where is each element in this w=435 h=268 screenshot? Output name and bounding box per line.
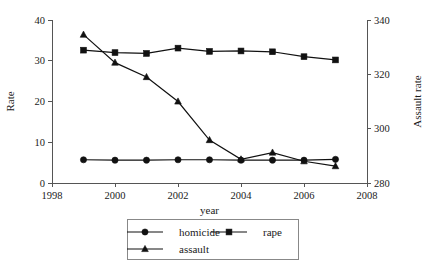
x-tick-label: 2006 (294, 190, 315, 201)
data-point-assault (80, 31, 87, 37)
right-tick-label: 280 (374, 178, 390, 189)
data-point-rape (238, 48, 244, 54)
x-tick-label: 2000 (105, 190, 126, 201)
legend-item-assault[interactable]: assault (127, 243, 209, 255)
x-tick-label: 2004 (231, 190, 253, 201)
legend-marker-rape (226, 229, 232, 235)
data-point-assault (175, 98, 182, 104)
data-point-homicide (175, 157, 181, 163)
series-rape (81, 45, 339, 63)
data-point-homicide (269, 157, 275, 163)
x-tick-label: 2002 (168, 190, 189, 201)
x-axis-title: year (200, 204, 219, 216)
left-tick-label: 10 (35, 137, 46, 148)
data-point-rape (270, 49, 276, 55)
data-point-homicide (332, 156, 338, 162)
chart-legend: homiciderapeassault (127, 219, 298, 259)
left-tick-label: 20 (35, 96, 46, 107)
left-tick-label: 0 (40, 178, 45, 189)
data-point-rape (112, 50, 118, 56)
chart-container: 0102030402803003203401998200020022004200… (0, 0, 435, 268)
right-tick-label: 320 (374, 69, 390, 80)
data-point-homicide (206, 157, 212, 163)
y2-axis-title: Assault rate (411, 75, 423, 127)
left-tick-label: 30 (35, 55, 46, 66)
legend-item-rape[interactable]: rape (211, 226, 282, 238)
data-point-rape (207, 48, 213, 54)
left-tick-label: 40 (35, 15, 46, 26)
data-point-homicide (80, 157, 86, 163)
data-point-rape (301, 54, 307, 60)
axis-tick-labels: 0102030402803003203401998200020022004200… (35, 15, 390, 201)
data-point-rape (175, 45, 181, 51)
data-point-rape (333, 57, 339, 63)
legend-marker-homicide (142, 229, 148, 235)
x-tick-label: 1998 (42, 190, 63, 201)
data-point-homicide (143, 157, 149, 163)
right-tick-label: 300 (374, 123, 390, 134)
x-tick-label: 2008 (357, 190, 378, 201)
right-tick-label: 340 (374, 15, 390, 26)
data-point-rape (81, 47, 87, 53)
y-axis-title: Rate (4, 91, 16, 111)
data-point-assault (269, 149, 276, 155)
line-chart: 0102030402803003203401998200020022004200… (0, 0, 435, 268)
data-point-rape (144, 51, 150, 57)
legend-label-rape: rape (263, 226, 282, 238)
data-series (80, 31, 339, 169)
legend-item-homicide[interactable]: homicide (127, 226, 220, 238)
data-point-homicide (112, 157, 118, 163)
legend-label-assault: assault (179, 243, 209, 255)
